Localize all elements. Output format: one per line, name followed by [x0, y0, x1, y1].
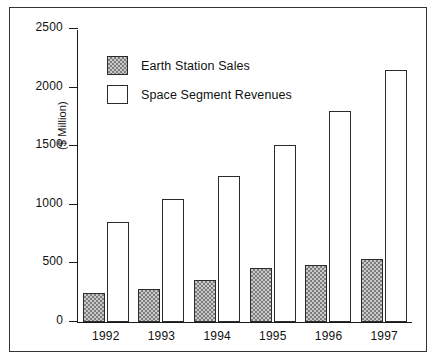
y-axis-tick-mark	[69, 204, 78, 205]
x-axis-tick-labels: 199219931994199519961997	[78, 322, 412, 343]
legend-item: Space Segment Revenues	[107, 85, 292, 104]
y-axis-tick: 500	[22, 262, 78, 263]
y-axis-tick-label: 1000	[36, 196, 64, 210]
x-axis-tick-label: 1995	[245, 322, 301, 343]
bar	[83, 293, 105, 322]
bar	[274, 145, 296, 322]
y-axis-tick-label: 500	[42, 254, 63, 268]
legend-item: Earth Station Sales	[107, 56, 292, 75]
y-axis-tick: 1000	[22, 204, 78, 205]
x-axis-tick-label: 1992	[78, 322, 134, 343]
x-axis-tick-label: 1993	[134, 322, 190, 343]
y-axis-tick: 1500	[22, 145, 78, 146]
y-axis-tick-mark	[69, 145, 78, 146]
bar-group	[305, 30, 351, 322]
bar	[218, 176, 240, 323]
x-axis-tick-label: 1996	[301, 322, 357, 343]
y-axis-tick-label: 1500	[36, 137, 64, 151]
legend-swatch	[107, 56, 128, 75]
y-axis-tick-label: 2500	[36, 20, 64, 34]
y-axis-tick-label: 2000	[36, 79, 64, 93]
y-axis-tick-mark	[69, 28, 78, 29]
bar	[329, 111, 351, 322]
y-axis-tick-mark	[69, 321, 78, 322]
x-axis-tick-label: 1994	[189, 322, 245, 343]
bar	[250, 268, 272, 322]
bar	[107, 222, 129, 322]
y-axis-tick: 2500	[22, 28, 78, 29]
y-axis-tick-mark	[69, 262, 78, 263]
bar	[138, 289, 160, 322]
y-axis-tick-mark	[69, 87, 78, 88]
bar	[305, 265, 327, 322]
chart-legend: Earth Station SalesSpace Segment Revenue…	[107, 56, 292, 104]
y-axis-tick: 0	[22, 321, 78, 322]
bar	[194, 280, 216, 322]
legend-label: Earth Station Sales	[141, 59, 250, 73]
bar-chart-figure: ($ Million) 05001000150020002500 1992199…	[0, 0, 436, 362]
legend-label: Space Segment Revenues	[141, 88, 292, 102]
y-axis-tick: 2000	[22, 87, 78, 88]
x-axis-tick-label: 1997	[356, 322, 412, 343]
bar	[361, 259, 383, 322]
y-axis-tick-label: 0	[56, 313, 63, 327]
legend-swatch	[107, 85, 128, 104]
bar	[162, 199, 184, 322]
bar-group	[361, 30, 407, 322]
bar	[385, 70, 407, 322]
